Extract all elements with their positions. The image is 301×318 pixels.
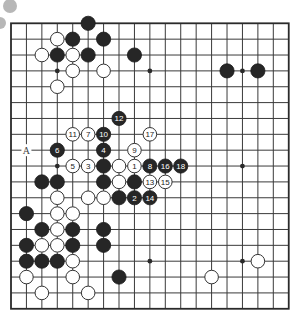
white-stone — [66, 207, 80, 221]
star-point-icon — [55, 164, 60, 169]
white-stone — [97, 64, 111, 78]
black-stone — [50, 175, 64, 189]
gray-dot-side-icon — [0, 17, 6, 29]
numbered-move-8: 8 — [143, 159, 157, 173]
star-point-icon — [55, 68, 60, 73]
white-stone — [50, 207, 64, 221]
black-stone — [81, 16, 95, 30]
numbered-move-1: 1 — [128, 159, 142, 173]
black-stone — [50, 254, 64, 268]
white-stone — [66, 270, 80, 284]
white-stone — [50, 239, 64, 253]
move-number: 11 — [69, 130, 78, 139]
white-stone — [81, 286, 95, 300]
numbered-move-15: 15 — [159, 175, 173, 189]
move-number: 18 — [176, 162, 185, 171]
black-stone — [19, 238, 33, 252]
black-stone — [220, 64, 234, 78]
black-stone — [19, 207, 33, 221]
white-stone — [20, 270, 34, 284]
move-number: 1 — [132, 162, 137, 171]
white-stone — [66, 48, 80, 62]
white-stone — [50, 191, 64, 205]
move-number: 4 — [101, 146, 106, 155]
black-stone — [127, 175, 141, 189]
black-stone — [35, 222, 49, 236]
move-number: 17 — [145, 130, 154, 139]
star-point-icon — [147, 259, 152, 264]
move-number: 8 — [148, 162, 153, 171]
black-stone — [96, 238, 110, 252]
black-stone — [96, 222, 110, 236]
black-stone — [66, 32, 80, 46]
white-stone — [112, 175, 126, 189]
go-board: A 123456789101112131415161718 — [0, 0, 301, 318]
point-label: A — [23, 145, 31, 156]
numbered-move-11: 11 — [66, 128, 80, 142]
move-number: 9 — [132, 146, 137, 155]
move-number: 6 — [55, 146, 60, 155]
star-point-icon — [240, 68, 245, 73]
move-number: 10 — [99, 130, 108, 139]
white-stone — [50, 223, 64, 237]
move-number: 16 — [161, 162, 170, 171]
black-stone — [127, 48, 141, 62]
stones: 123456789101112131415161718 — [19, 16, 265, 300]
white-stone — [50, 80, 64, 94]
white-stone — [112, 159, 126, 173]
black-stone — [81, 48, 95, 62]
numbered-move-12: 12 — [112, 111, 126, 125]
black-stone — [19, 254, 33, 268]
numbered-move-5: 5 — [66, 159, 80, 173]
numbered-move-16: 16 — [158, 159, 172, 173]
black-stone — [96, 32, 110, 46]
black-stone — [66, 238, 80, 252]
numbered-move-7: 7 — [81, 128, 95, 142]
numbered-move-2: 2 — [127, 191, 141, 205]
black-stone — [112, 270, 126, 284]
black-stone — [251, 64, 265, 78]
black-stone — [96, 159, 110, 173]
numbered-move-10: 10 — [96, 127, 110, 141]
white-stone — [205, 270, 219, 284]
white-stone — [81, 191, 95, 205]
white-stone — [251, 254, 265, 268]
white-stone — [50, 32, 64, 46]
black-stone — [35, 254, 49, 268]
star-point-icon — [147, 68, 152, 73]
white-stone — [66, 254, 80, 268]
white-stone — [66, 64, 80, 78]
numbered-move-6: 6 — [50, 143, 64, 157]
white-stone — [35, 48, 49, 62]
black-stone — [50, 48, 64, 62]
white-stone — [97, 191, 111, 205]
move-number: 2 — [132, 194, 137, 203]
move-number: 12 — [115, 114, 124, 123]
decorative-gray-dots — [0, 0, 17, 29]
black-stone — [96, 175, 110, 189]
numbered-move-17: 17 — [143, 128, 157, 142]
star-point-icon — [240, 164, 245, 169]
numbered-move-3: 3 — [81, 159, 95, 173]
gray-dot-top-icon — [3, 0, 17, 13]
black-stone — [112, 191, 126, 205]
move-number: 3 — [86, 162, 91, 171]
black-stone — [35, 175, 49, 189]
numbered-move-9: 9 — [128, 143, 142, 157]
move-number: 5 — [70, 162, 75, 171]
white-stone — [35, 286, 49, 300]
numbered-move-4: 4 — [96, 143, 110, 157]
black-stone — [66, 222, 80, 236]
numbered-move-13: 13 — [143, 175, 157, 189]
move-number: 15 — [161, 178, 170, 187]
numbered-move-14: 14 — [143, 191, 157, 205]
move-number: 13 — [145, 178, 154, 187]
white-stone — [35, 239, 49, 253]
move-number: 7 — [86, 130, 91, 139]
point-labels: A — [21, 144, 31, 156]
numbered-move-18: 18 — [174, 159, 188, 173]
move-number: 14 — [145, 194, 154, 203]
star-point-icon — [240, 259, 245, 264]
